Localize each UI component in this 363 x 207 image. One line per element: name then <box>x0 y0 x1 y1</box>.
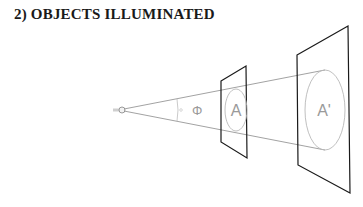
illumination-diagram: Φ A A' <box>0 0 363 207</box>
angle-label: Φ <box>192 103 202 118</box>
upper-ray <box>124 70 325 109</box>
light-source-icon <box>113 107 125 113</box>
angle-arc <box>177 99 178 121</box>
near-area-label: A <box>231 102 242 119</box>
angle-tick <box>180 109 183 112</box>
far-area-label: A' <box>317 102 331 119</box>
